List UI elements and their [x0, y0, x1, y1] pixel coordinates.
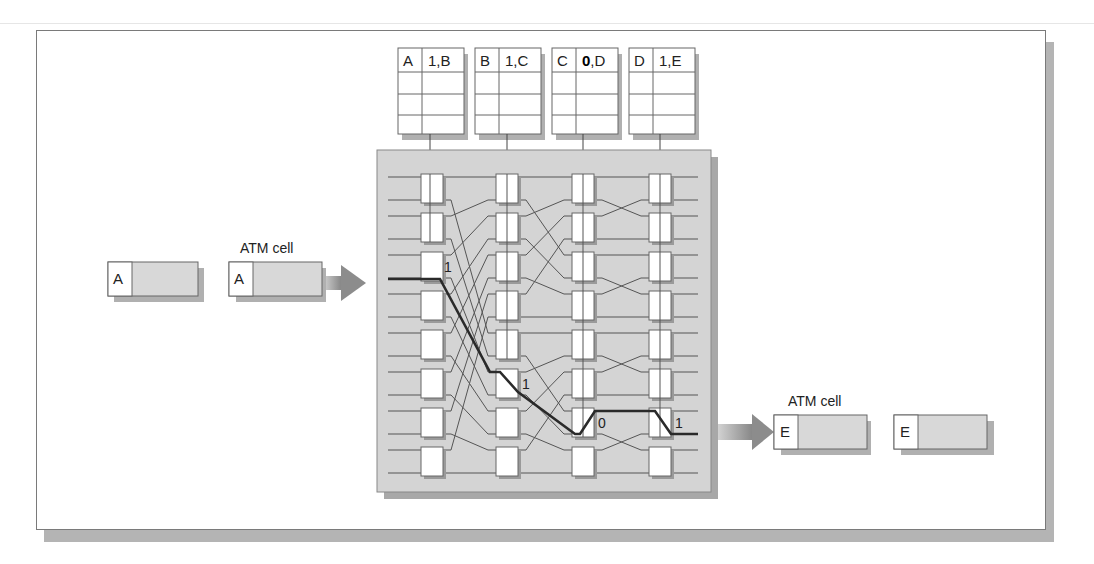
departed-cell-header: E [900, 423, 910, 440]
switch-element [421, 330, 443, 359]
stage-4-bit: 1 [675, 415, 683, 431]
switch-element [421, 369, 443, 398]
table-3-in: C [557, 52, 568, 69]
switch-element [421, 174, 443, 203]
table-2-out: 1,C [505, 52, 528, 69]
switch-element [421, 291, 443, 320]
stage-3-bit: 0 [598, 415, 606, 431]
stage-2-bit: 1 [522, 376, 530, 392]
stage-1-bit: 1 [444, 259, 452, 275]
switch-element [421, 213, 443, 242]
atm-switch-diagram [0, 0, 1094, 564]
output-atm-cell-label: ATM cell [788, 393, 841, 409]
table-1-out: 1,B [428, 52, 451, 69]
table-4-in: D [634, 52, 645, 69]
table-3-out: 0,D [582, 52, 605, 69]
table-4-out: 1,E [659, 52, 682, 69]
exiting-cell-header: E [780, 423, 790, 440]
table-1-in: A [403, 52, 413, 69]
table-2-in: B [480, 52, 490, 69]
entering-cell-header: A [234, 270, 244, 287]
waiting-cell-header: A [113, 270, 123, 287]
switch-element [572, 447, 594, 476]
switch-element [421, 252, 443, 281]
switch-element [421, 447, 443, 476]
switch-element [496, 447, 518, 476]
input-arrow [323, 265, 366, 301]
switch-element [649, 447, 671, 476]
switch-element [421, 408, 443, 437]
output-arrow [718, 414, 774, 450]
input-atm-cell-label: ATM cell [240, 240, 293, 256]
switch-element [496, 369, 518, 398]
switch-element [496, 408, 518, 437]
